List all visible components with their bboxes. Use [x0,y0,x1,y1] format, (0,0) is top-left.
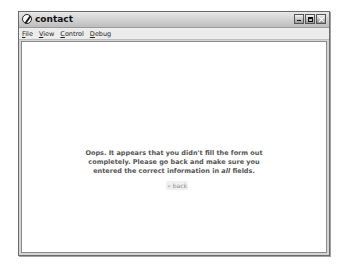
back-button[interactable]: « back [166,181,188,190]
window-title: contact [35,13,73,26]
window-controls [294,14,326,24]
menu-control[interactable]: Control [60,29,84,39]
minimize-button[interactable] [294,14,304,24]
error-message: Oops. It appears that you didn't fill th… [22,149,326,176]
title-bar[interactable]: contact [19,12,329,28]
compass-icon [22,14,32,24]
menu-view[interactable]: View [39,29,54,39]
maximize-button[interactable] [305,14,315,24]
app-window: contact File View Control Debug Oops. It… [18,11,330,256]
menu-bar: File View Control Debug [19,28,329,40]
close-button[interactable] [316,14,326,24]
content-area: Oops. It appears that you didn't fill th… [21,41,327,253]
menu-debug[interactable]: Debug [90,29,111,39]
menu-file[interactable]: File [22,29,33,39]
